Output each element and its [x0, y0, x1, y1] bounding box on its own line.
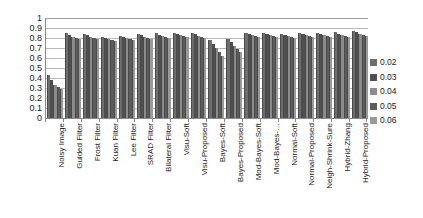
- legend-label: 0.04: [380, 87, 397, 96]
- legend-swatch: [370, 103, 377, 110]
- y-tick-label: 0.5: [29, 64, 42, 73]
- x-axis-label-cell: Noisy Image: [45, 123, 63, 215]
- bar: [239, 52, 242, 118]
- bar: [96, 39, 99, 118]
- legend-swatch: [370, 117, 377, 124]
- y-tick-label: 0.3: [29, 84, 42, 93]
- bar-group: [154, 18, 172, 118]
- x-tick: [224, 118, 242, 122]
- bar: [114, 41, 117, 118]
- x-axis-label-cell: Kuan Filter: [99, 123, 117, 215]
- x-tick: [81, 118, 99, 122]
- legend-label: 0.03: [380, 73, 397, 82]
- bar-group: [279, 18, 297, 118]
- y-tick-label: 0.7: [29, 44, 42, 53]
- x-axis-label-cell: Bayes-Soft: [206, 123, 224, 215]
- bar: [60, 89, 63, 118]
- bar: [203, 38, 206, 118]
- legend-label: 0.06: [380, 116, 397, 125]
- x-tick: [313, 118, 331, 122]
- x-axis-label-cell: Normal-Soft: [278, 123, 296, 215]
- x-axis-ticks: [45, 118, 367, 122]
- legend-label: 0.02: [380, 58, 397, 67]
- x-tick: [45, 118, 63, 122]
- y-tick-label: 0.9: [29, 24, 42, 33]
- x-tick: [366, 118, 367, 122]
- x-tick: [278, 118, 296, 122]
- x-axis-label-cell: Hybrid-Zhang: [331, 123, 349, 215]
- x-axis-label-cell: Guided Filter: [63, 123, 81, 215]
- x-axis-label-cell: Hybrid-Proposed: [349, 123, 367, 215]
- x-axis-label-cell: Mod-Bayes-Soft: [242, 123, 260, 215]
- x-tick: [331, 118, 349, 122]
- legend: 0.020.030.040.050.06: [370, 58, 422, 125]
- bar-group: [190, 18, 208, 118]
- y-tick-label: 0: [37, 114, 42, 123]
- x-axis-label-cell: Lee Filter: [117, 123, 135, 215]
- x-axis-label-cell: Bilateral Filter: [152, 123, 170, 215]
- bar: [257, 37, 260, 118]
- bars-layer: [46, 18, 368, 118]
- bar-group: [225, 18, 243, 118]
- x-tick: [260, 118, 278, 122]
- y-tick-label: 0.1: [29, 104, 42, 113]
- bar-group: [100, 18, 118, 118]
- bar: [293, 38, 296, 118]
- bar-group: [261, 18, 279, 118]
- bar: [167, 38, 170, 118]
- legend-item[interactable]: 0.05: [370, 102, 422, 111]
- x-tick: [349, 118, 367, 122]
- legend-item[interactable]: 0.06: [370, 116, 422, 125]
- y-axis: 10.90.80.70.60.50.40.30.20.10: [14, 12, 44, 122]
- bar-group: [64, 18, 82, 118]
- x-axis-label-cell: Frost Filter: [81, 123, 99, 215]
- y-tick-label: 0.8: [29, 34, 42, 43]
- x-axis-labels: Noisy ImageGuided FilterFrost FilterKuan…: [45, 123, 367, 215]
- x-tick: [242, 118, 260, 122]
- legend-swatch: [370, 59, 377, 66]
- bar: [221, 56, 224, 118]
- bar-group: [136, 18, 154, 118]
- bar: [329, 37, 332, 118]
- x-axis-label-cell: Bayes-Proposed: [224, 123, 242, 215]
- bar: [185, 37, 188, 118]
- bar-group: [207, 18, 225, 118]
- x-tick: [188, 118, 206, 122]
- bar-group: [82, 18, 100, 118]
- x-tick: [63, 118, 81, 122]
- x-axis-label-cell: Mod-Bayes-…: [260, 123, 278, 215]
- plot-area: [45, 18, 368, 119]
- legend-item[interactable]: 0.04: [370, 87, 422, 96]
- legend-item[interactable]: 0.02: [370, 58, 422, 67]
- x-tick: [170, 118, 188, 122]
- x-tick: [295, 118, 313, 122]
- x-tick: [134, 118, 152, 122]
- bar: [347, 37, 350, 118]
- x-axis-label-cell: Visu-Proposed: [188, 123, 206, 215]
- x-axis-label-cell: Visu-Soft: [170, 123, 188, 215]
- x-tick: [206, 118, 224, 122]
- x-tick: [117, 118, 135, 122]
- bar: [365, 36, 368, 118]
- legend-item[interactable]: 0.03: [370, 73, 422, 82]
- bar: [275, 37, 278, 118]
- bar-group: [46, 18, 64, 118]
- bar: [149, 39, 152, 118]
- bar-group: [172, 18, 190, 118]
- x-axis-label-cell: SRAD Filter: [134, 123, 152, 215]
- bar: [132, 40, 135, 118]
- legend-swatch: [370, 74, 377, 81]
- bar-group: [351, 18, 369, 118]
- legend-label: 0.05: [380, 102, 397, 111]
- bar-group: [297, 18, 315, 118]
- bar-group: [243, 18, 261, 118]
- bar: [78, 39, 81, 118]
- legend-swatch: [370, 88, 377, 95]
- y-tick-label: 0.2: [29, 94, 42, 103]
- bar-group: [118, 18, 136, 118]
- bar-group: [333, 18, 351, 118]
- x-axis-label-cell: Normal-Proposed: [295, 123, 313, 215]
- y-tick-label: 1: [37, 14, 42, 23]
- bar-chart: 10.90.80.70.60.50.40.30.20.10 Noisy Imag…: [0, 0, 423, 218]
- x-tick: [99, 118, 117, 122]
